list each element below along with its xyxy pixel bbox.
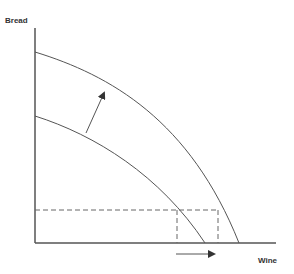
shift-arrow-icon [86,93,104,133]
y-axis-label: Bread [5,16,28,25]
ppf-diagram: Bread Wine [0,0,294,274]
x-axis-label: Wine [258,256,278,265]
inner-ppf-curve [35,116,205,243]
outer-ppf-curve [35,52,239,243]
